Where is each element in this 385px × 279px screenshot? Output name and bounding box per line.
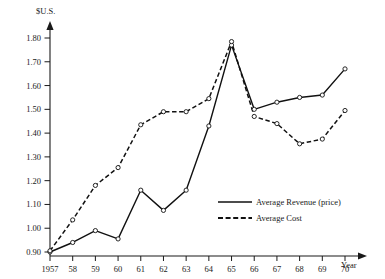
y-tick-label: 0.90 (26, 247, 41, 257)
data-point-average-revenue-price-62 (161, 208, 165, 212)
y-tick-label: 1.10 (26, 199, 41, 209)
chart-container: $U.S. Year 0.901.001.101.201.301.401.501… (0, 0, 385, 279)
data-point-average-revenue-price-63 (184, 188, 188, 192)
data-point-average-cost-65 (229, 39, 233, 43)
x-tick-label: 66 (250, 264, 259, 274)
y-tick-label: 1.20 (26, 176, 41, 186)
data-point-average-cost-58 (71, 218, 75, 222)
data-point-average-cost-60 (116, 165, 120, 169)
x-tick-label: 61 (137, 264, 146, 274)
x-tick-label: 65 (227, 264, 236, 274)
data-point-average-revenue-price-58 (71, 240, 75, 244)
y-tick-label: 1.50 (26, 104, 41, 114)
data-point-average-cost-69 (320, 137, 324, 141)
y-tick-label: 1.70 (26, 57, 41, 67)
y-tick-label: 1.60 (26, 81, 41, 91)
data-point-average-cost-70 (343, 108, 347, 112)
legend-label-average-revenue: Average Revenue (price) (256, 197, 341, 207)
x-tick-label: 60 (114, 264, 123, 274)
x-tick-label: 58 (68, 264, 77, 274)
data-point-average-revenue-price-64 (207, 124, 211, 128)
legend-label-average-cost: Average Cost (256, 213, 303, 223)
data-point-average-cost-68 (298, 142, 302, 146)
data-point-average-revenue-price-70 (343, 67, 347, 71)
data-point-average-cost-63 (184, 110, 188, 114)
x-axis-ticks: 195758596061626364656667686970 (42, 256, 350, 274)
x-tick-label: 70 (341, 264, 350, 274)
line-chart: $U.S. Year 0.901.001.101.201.301.401.501… (0, 0, 385, 279)
y-tick-label: 1.00 (26, 223, 41, 233)
y-tick-label: 1.80 (26, 33, 41, 43)
data-point-average-revenue-price-68 (298, 95, 302, 99)
y-axis-title: $U.S. (36, 6, 55, 16)
y-tick-label: 1.40 (26, 128, 41, 138)
data-point-average-cost-61 (139, 123, 143, 127)
data-point-average-revenue-price-61 (139, 188, 143, 192)
data-point-average-revenue-price-60 (116, 237, 120, 241)
x-tick-label: 67 (273, 264, 282, 274)
y-axis-arrowhead (46, 21, 53, 30)
y-axis (46, 21, 53, 256)
x-tick-label: 69 (318, 264, 327, 274)
x-tick-label: 59 (91, 264, 100, 274)
x-tick-label: 64 (205, 264, 214, 274)
data-point-markers (48, 39, 347, 254)
data-point-average-revenue-price-66 (252, 107, 256, 111)
data-point-average-revenue-price-67 (275, 100, 279, 104)
data-point-average-cost-66 (252, 114, 256, 118)
y-axis-ticks: 0.901.001.101.201.301.401.501.601.701.80 (26, 33, 50, 257)
y-tick-label: 1.30 (26, 152, 41, 162)
data-point-average-cost-62 (161, 110, 165, 114)
data-point-average-cost-67 (275, 122, 279, 126)
data-point-average-cost-1957 (48, 249, 52, 253)
data-point-average-cost-64 (207, 97, 211, 101)
x-tick-label: 62 (159, 264, 168, 274)
x-tick-label: 1957 (42, 264, 59, 274)
legend: Average Revenue (price) Average Cost (218, 197, 341, 223)
x-axis-arrowhead (358, 252, 367, 259)
x-tick-label: 68 (295, 264, 304, 274)
x-tick-label: 63 (182, 264, 191, 274)
data-point-average-revenue-price-59 (93, 229, 97, 233)
data-point-average-revenue-price-69 (320, 93, 324, 97)
data-point-average-cost-59 (93, 183, 97, 187)
